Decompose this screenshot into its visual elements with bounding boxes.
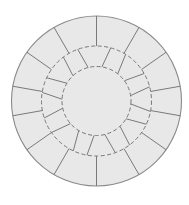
paving-diagram — [0, 0, 189, 205]
